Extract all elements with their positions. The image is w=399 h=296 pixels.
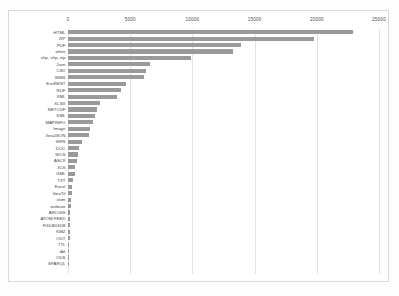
bar bbox=[68, 185, 72, 189]
bar-row: SPARQL bbox=[68, 261, 379, 267]
bar bbox=[68, 107, 97, 111]
category-label: PDF bbox=[57, 43, 66, 48]
bar bbox=[68, 198, 71, 202]
bar bbox=[68, 146, 79, 150]
category-label: WCS bbox=[55, 152, 65, 157]
horizontal-bar-chart: 0500010000150002000025000 HTMLZIPPDFothe… bbox=[9, 11, 388, 281]
bar bbox=[68, 101, 100, 105]
bar bbox=[68, 210, 70, 214]
category-label: XLSX bbox=[54, 101, 65, 106]
category-label: TXT bbox=[57, 178, 65, 183]
bar bbox=[68, 140, 82, 144]
x-tick-label: 5000 bbox=[125, 17, 136, 22]
bar bbox=[68, 82, 126, 86]
category-label: FGDB/GDB bbox=[43, 223, 66, 228]
x-tick-label: 10000 bbox=[186, 17, 200, 22]
bar bbox=[68, 230, 70, 234]
bar bbox=[68, 191, 72, 195]
bar bbox=[68, 236, 70, 240]
category-label: KML bbox=[57, 113, 66, 118]
bar bbox=[68, 95, 117, 99]
chart-frame: 0500010000150002000025000 HTMLZIPPDFothe… bbox=[8, 10, 389, 282]
bar bbox=[68, 49, 233, 53]
category-label: Json bbox=[56, 62, 65, 67]
bar bbox=[68, 178, 73, 182]
bar bbox=[68, 172, 75, 176]
bar bbox=[68, 114, 95, 118]
category-label: ATOM FEED bbox=[40, 216, 65, 221]
category-label: XML bbox=[57, 94, 66, 99]
category-label: GeoTif bbox=[52, 191, 65, 196]
bar bbox=[68, 223, 70, 227]
category-label: Image bbox=[53, 126, 65, 131]
bar bbox=[68, 69, 146, 73]
category-label: dbf bbox=[59, 249, 65, 254]
category-label: TTL bbox=[58, 242, 66, 247]
category-label: other bbox=[55, 49, 65, 54]
category-label: ASCII bbox=[54, 158, 65, 163]
category-label: CSV bbox=[57, 68, 66, 73]
category-label: KMZ bbox=[56, 229, 65, 234]
category-label: ARCGIS bbox=[49, 210, 66, 215]
bar bbox=[68, 127, 90, 131]
category-label: Excel bbox=[55, 184, 66, 189]
bar bbox=[68, 56, 191, 60]
category-label: SPARQL bbox=[48, 261, 65, 266]
category-label: ZIP bbox=[59, 36, 66, 41]
chart-page: 0500010000150002000025000 HTMLZIPPDFothe… bbox=[0, 0, 399, 296]
bar bbox=[68, 30, 353, 34]
category-label: XLS bbox=[57, 165, 65, 170]
gridline bbox=[379, 29, 380, 274]
bar bbox=[68, 62, 150, 66]
category-label: DOC bbox=[56, 146, 66, 151]
category-label: EsriREST bbox=[46, 81, 65, 86]
bar bbox=[68, 159, 77, 163]
bar bbox=[68, 152, 78, 156]
category-label: HTML bbox=[54, 30, 66, 35]
bar bbox=[68, 204, 71, 208]
x-tick-label: 25000 bbox=[372, 17, 386, 22]
bar bbox=[68, 262, 69, 266]
bar bbox=[68, 120, 93, 124]
bar bbox=[68, 249, 69, 253]
category-label: ODT bbox=[56, 236, 65, 241]
bar bbox=[68, 255, 69, 259]
bar bbox=[68, 88, 121, 92]
category-label: website bbox=[51, 204, 66, 209]
bar bbox=[68, 133, 89, 137]
category-label: GML bbox=[56, 171, 65, 176]
category-label: GeoJSON bbox=[46, 133, 66, 138]
x-tick-label: 15000 bbox=[248, 17, 262, 22]
bar bbox=[68, 165, 75, 169]
category-label: MAPINFO bbox=[46, 120, 66, 125]
bar bbox=[68, 243, 69, 247]
category-label: xlsm bbox=[56, 197, 65, 202]
category-label: ODS bbox=[56, 255, 65, 260]
category-label: shp, shp, zip bbox=[41, 55, 66, 60]
category-label: WMS bbox=[55, 75, 66, 80]
bar bbox=[68, 37, 314, 41]
plot-area: 0500010000150002000025000 HTMLZIPPDFothe… bbox=[68, 29, 379, 274]
category-label: RDF bbox=[57, 88, 66, 93]
bar bbox=[68, 75, 144, 79]
category-label: WFS bbox=[56, 139, 66, 144]
bar bbox=[68, 217, 70, 221]
bar bbox=[68, 43, 241, 47]
category-label: NETCDF bbox=[48, 107, 66, 112]
x-tick-label: 20000 bbox=[310, 17, 324, 22]
bar-rows: HTMLZIPPDFothershp, shp, zipJsonCSVWMSEs… bbox=[68, 29, 379, 274]
x-tick-label: 0 bbox=[67, 17, 70, 22]
